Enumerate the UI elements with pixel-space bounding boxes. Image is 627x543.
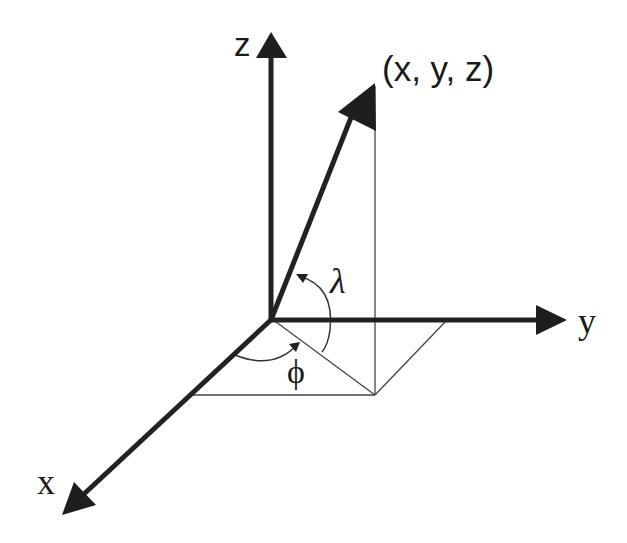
x-axis-label: x — [37, 462, 55, 502]
y-axis-label: y — [578, 301, 596, 341]
y-axis-arrowhead — [536, 305, 567, 335]
axes — [62, 32, 567, 515]
z-axis-arrowhead — [256, 32, 287, 58]
position-vector-arrowhead — [338, 83, 376, 131]
position-vector — [271, 83, 376, 320]
lambda-label: λ — [329, 261, 346, 301]
projection-guides — [193, 86, 447, 395]
x-parallel-guide — [375, 320, 447, 395]
labels: z y x (x, y, z) λ ϕ — [37, 26, 596, 502]
lambda-arc — [299, 276, 331, 352]
coordinate-diagram: z y x (x, y, z) λ ϕ — [0, 0, 627, 543]
phi-label: ϕ — [287, 353, 305, 390]
z-axis-label: z — [234, 26, 251, 63]
x-axis — [84, 318, 273, 494]
point-label: (x, y, z) — [382, 49, 494, 88]
